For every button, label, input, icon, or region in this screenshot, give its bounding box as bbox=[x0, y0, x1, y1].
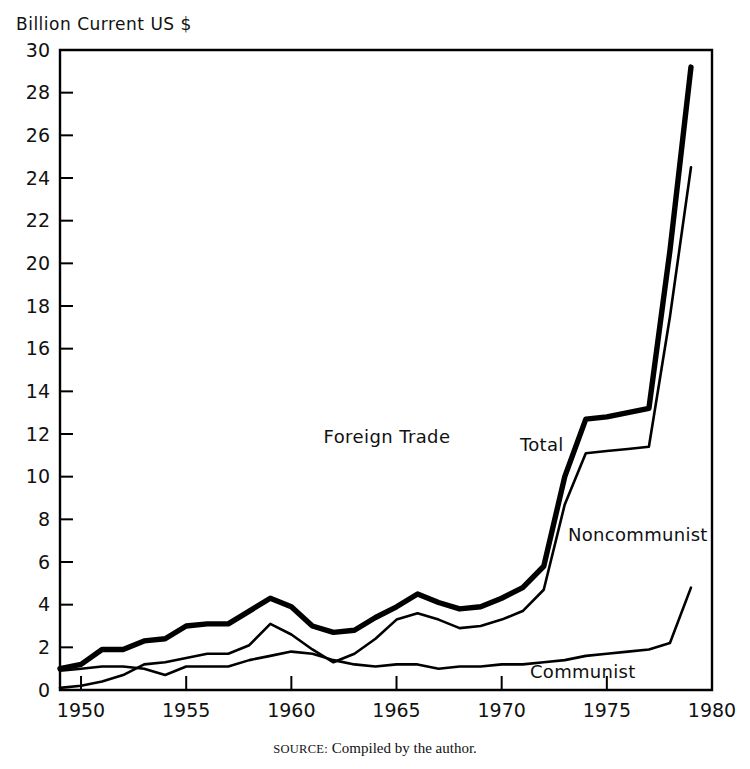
y-tick-label: 2 bbox=[38, 636, 50, 658]
y-tick-label: 10 bbox=[26, 465, 50, 487]
line-chart-plot: 024681012141618202224262830 195019551960… bbox=[0, 0, 750, 730]
x-tick-label: 1960 bbox=[267, 699, 315, 721]
y-axis-ticks: 024681012141618202224262830 bbox=[26, 39, 73, 701]
x-tick-label: 1970 bbox=[477, 699, 525, 721]
source-prefix: SOURCE: bbox=[273, 742, 328, 756]
data-series-group bbox=[60, 67, 691, 688]
y-tick-label: 18 bbox=[26, 295, 50, 317]
y-tick-label: 24 bbox=[26, 167, 50, 189]
source-text: Compiled by the author. bbox=[332, 740, 477, 756]
y-tick-label: 14 bbox=[26, 380, 50, 402]
x-tick-label: 1980 bbox=[688, 699, 736, 721]
y-tick-label: 6 bbox=[38, 551, 50, 573]
y-tick-label: 28 bbox=[26, 81, 50, 103]
series-label-noncommunist: Noncommunist bbox=[568, 524, 708, 545]
y-tick-label: 30 bbox=[26, 39, 50, 61]
x-tick-label: 1975 bbox=[583, 699, 631, 721]
plot-title: Foreign Trade bbox=[324, 426, 451, 447]
series-line-total bbox=[60, 67, 691, 669]
x-tick-label: 1955 bbox=[162, 699, 210, 721]
source-note: SOURCE: Compiled by the author. bbox=[0, 740, 750, 757]
y-tick-label: 26 bbox=[26, 124, 50, 146]
y-tick-label: 22 bbox=[26, 209, 50, 231]
y-axis-unit-label: Billion Current US $ bbox=[16, 14, 192, 34]
y-tick-label: 12 bbox=[26, 423, 50, 445]
plot-frame bbox=[60, 50, 712, 690]
x-axis-ticks: 1950195519601965197019751980 bbox=[57, 676, 736, 721]
series-label-total: Total bbox=[519, 434, 564, 455]
chart-axes bbox=[60, 50, 712, 690]
y-tick-label: 8 bbox=[38, 508, 50, 530]
series-label-communist: Communist bbox=[530, 661, 636, 682]
y-tick-label: 16 bbox=[26, 337, 50, 359]
y-tick-label: 0 bbox=[38, 679, 50, 701]
x-tick-label: 1965 bbox=[372, 699, 420, 721]
x-tick-label: 1950 bbox=[57, 699, 105, 721]
y-tick-label: 4 bbox=[38, 593, 50, 615]
foreign-trade-chart-figure: Billion Current US $ 0246810121416182022… bbox=[0, 0, 750, 769]
y-tick-label: 20 bbox=[26, 252, 50, 274]
